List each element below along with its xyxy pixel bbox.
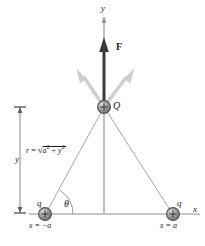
radical-group: √a2+y2 (38, 146, 65, 155)
distance-formula-equals: = (31, 146, 36, 155)
component-force-arrow-left (77, 69, 103, 105)
charge-Q (98, 101, 111, 114)
angle-theta-label: θ (64, 199, 69, 209)
ray-to-left-charge (46, 107, 104, 213)
distance-formula: r=√a2+y2 (26, 146, 65, 155)
y-axis-label: y (101, 4, 105, 13)
charge-q-left-position-label: x = −a (29, 222, 51, 230)
net-force-arrow (99, 37, 109, 106)
component-force-arrow-right (106, 69, 134, 105)
charge-q-right (167, 208, 180, 221)
y-axis-arrowhead (102, 17, 106, 23)
x-axis-label: x (193, 205, 197, 214)
distance-formula-lhs: r (26, 146, 29, 155)
charge-q-right-label: q (177, 199, 182, 208)
net-force-label: F (116, 42, 122, 52)
radicand-plus: + (52, 146, 57, 155)
diagram-canvas (0, 0, 205, 246)
charge-Q-label: Q (113, 101, 120, 111)
charge-q-left (39, 208, 52, 221)
height-dimension-label: y (15, 155, 19, 164)
radical-bar (43, 146, 66, 147)
figure-container: y x F Q q q x = −a x = a θ y r=√a2+y2 (0, 0, 205, 246)
charge-q-right-position-label: x = a (160, 222, 177, 230)
ray-to-right-charge (104, 107, 172, 213)
charge-q-left-label: q (37, 199, 42, 208)
